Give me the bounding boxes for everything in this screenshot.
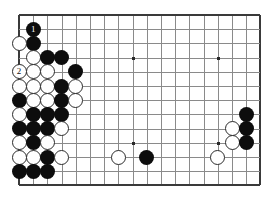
stone-move-number: 2 [13,65,26,78]
stone-move-number: 1 [26,22,41,37]
stone-white[interactable] [225,135,240,150]
grid-line-horizontal [19,29,260,30]
stone-white[interactable] [12,36,27,51]
stone-black[interactable] [40,164,55,179]
stone-black[interactable] [239,121,254,136]
stone-black[interactable] [54,79,69,94]
stone-white[interactable] [68,93,83,108]
go-diagram-root: 12 [0,0,277,203]
grid-line-horizontal [19,72,260,73]
board-edge-line-horizontal [19,14,260,16]
stone-black[interactable] [26,36,41,51]
stone-white[interactable] [40,93,55,108]
star-point [132,142,135,145]
stone-black[interactable] [40,50,55,65]
stone-black[interactable] [40,107,55,122]
stone-black[interactable] [40,150,55,165]
stone-black[interactable] [54,50,69,65]
stone-black[interactable] [139,150,154,165]
stone-black[interactable] [54,107,69,122]
stone-white[interactable] [26,150,41,165]
stone-black[interactable] [26,135,41,150]
stone-white[interactable] [40,64,55,79]
grid-line-horizontal [19,43,260,44]
stone-white[interactable] [26,64,41,79]
stone-black[interactable] [26,107,41,122]
go-board[interactable]: 12 [0,0,277,203]
numbered-stone-white[interactable]: 2 [12,64,27,79]
star-point [217,57,220,60]
stone-white[interactable] [12,79,27,94]
stone-white[interactable] [12,150,27,165]
stone-white[interactable] [54,150,69,165]
stone-black[interactable] [26,121,41,136]
stone-black[interactable] [54,93,69,108]
stone-white[interactable] [111,150,126,165]
stone-black[interactable] [239,107,254,122]
stone-black[interactable] [12,164,27,179]
stone-black[interactable] [26,164,41,179]
grid-line-horizontal [19,171,260,172]
stone-white[interactable] [12,135,27,150]
stone-white[interactable] [12,107,27,122]
stone-white[interactable] [210,150,225,165]
star-point [132,57,135,60]
stone-white[interactable] [26,50,41,65]
stone-white[interactable] [54,121,69,136]
star-point [217,142,220,145]
stone-white[interactable] [26,93,41,108]
stone-black[interactable] [40,121,55,136]
stone-white[interactable] [40,135,55,150]
stone-black[interactable] [12,93,27,108]
stone-white[interactable] [26,79,41,94]
stone-white[interactable] [225,121,240,136]
stone-black[interactable] [12,121,27,136]
numbered-stone-black[interactable]: 1 [26,22,41,37]
stone-white[interactable] [40,79,55,94]
stone-white[interactable] [68,79,83,94]
stone-black[interactable] [239,135,254,150]
board-edge-line-horizontal [19,184,260,186]
stone-black[interactable] [68,64,83,79]
